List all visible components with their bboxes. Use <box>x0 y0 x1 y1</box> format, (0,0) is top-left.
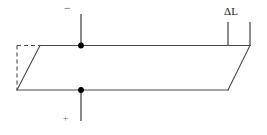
deformed-parallelogram <box>17 46 250 91</box>
parallelogram-fill <box>17 46 250 91</box>
positive-terminal-label: + <box>63 114 68 123</box>
delta-l-label: ΔL <box>224 6 238 17</box>
shear-deformation-diagram: ΔL − + <box>0 0 267 135</box>
diagram-canvas <box>0 0 267 135</box>
delta-l-dimension <box>228 22 250 46</box>
bottom-node-dot <box>78 87 84 93</box>
negative-terminal-label: − <box>64 2 71 14</box>
top-node-dot <box>78 43 84 49</box>
